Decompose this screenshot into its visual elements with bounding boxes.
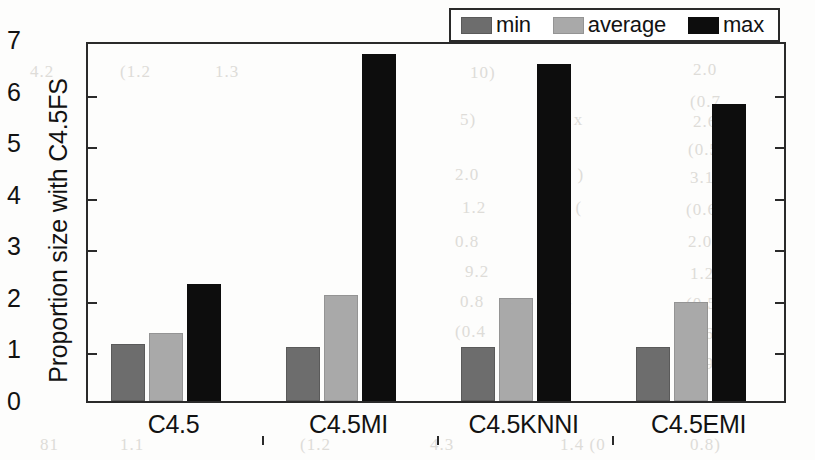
- y-axis-tick-label: 5: [0, 129, 21, 158]
- legend-swatch-average: [553, 17, 584, 34]
- x-axis-tick-label: C4.5: [74, 410, 274, 439]
- x-axis-tick-mark: [437, 436, 439, 445]
- bar-min-c45knni: [461, 347, 495, 401]
- bar-max-c45mi: [362, 54, 396, 401]
- bar-average-c45knni: [499, 298, 533, 401]
- x-axis-tick-label: C4.5EMI: [599, 410, 799, 439]
- legend-label: average: [588, 12, 666, 38]
- y-axis-tick-label: 3: [0, 232, 21, 261]
- legend-label: min: [496, 12, 531, 38]
- x-axis-tick-label: C4.5KNNI: [424, 410, 624, 439]
- y-axis-tick-mark: [88, 250, 97, 252]
- y-axis-tick-label: 6: [0, 78, 21, 107]
- y-axis-tick-mark: [88, 147, 97, 149]
- y-axis-tick-mark: [88, 302, 97, 304]
- legend-label: max: [723, 12, 764, 38]
- y-axis-tick-mark: [88, 96, 97, 98]
- y-axis-tick-label: 4: [0, 181, 21, 210]
- chart-legend: minaveragemax: [449, 8, 780, 42]
- bar-average-c45mi: [324, 295, 358, 401]
- y-axis-tick-mark: [775, 302, 784, 304]
- bar-average-c45: [149, 333, 183, 401]
- bar-min-c45emi: [636, 347, 670, 401]
- plot-area: [86, 42, 786, 403]
- y-axis-tick-label: 7: [0, 26, 21, 55]
- y-axis-tick-mark: [775, 199, 784, 201]
- bar-max-c45: [187, 284, 221, 401]
- y-axis-title: Proportion size with C4.5FS: [44, 41, 73, 421]
- y-axis-tick-mark: [775, 250, 784, 252]
- legend-swatch-max: [688, 17, 719, 34]
- scan-artifact-text: 81: [40, 435, 59, 455]
- y-axis-tick-mark: [88, 199, 97, 201]
- y-axis-tick-label: 1: [0, 335, 21, 364]
- x-axis-tick-label: C4.5MI: [249, 410, 449, 439]
- y-axis-tick-mark: [775, 353, 784, 355]
- y-axis-tick-mark: [88, 353, 97, 355]
- y-axis-tick-label: 2: [0, 284, 21, 313]
- y-axis-tick-mark: [775, 147, 784, 149]
- y-axis-tick-mark: [775, 96, 784, 98]
- bar-min-c45mi: [286, 347, 320, 401]
- y-axis-tick-label: 0: [0, 387, 21, 416]
- x-axis-tick-mark: [262, 436, 264, 445]
- legend-entry-min: min: [461, 12, 531, 38]
- bar-min-c45: [111, 344, 145, 401]
- legend-entry-max: max: [688, 12, 764, 38]
- x-axis-tick-mark: [612, 436, 614, 445]
- bar-max-c45knni: [537, 64, 571, 401]
- bar-max-c45emi: [712, 104, 746, 401]
- bar-average-c45emi: [674, 302, 708, 401]
- bar-chart-figure: 10)2.0(0.75)101 x2.6(0.52.03.0 )3.11.21.…: [0, 0, 815, 460]
- legend-swatch-min: [461, 17, 492, 34]
- legend-entry-average: average: [553, 12, 666, 38]
